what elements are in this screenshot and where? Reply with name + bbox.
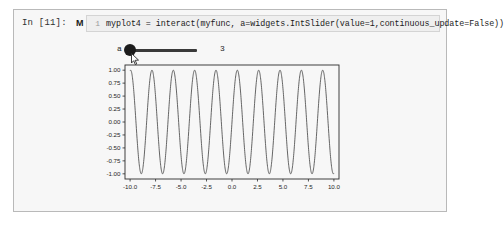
- svg-text:2.5: 2.5: [253, 183, 262, 190]
- svg-text:0.25: 0.25: [108, 105, 121, 112]
- svg-text:7.5: 7.5: [304, 183, 313, 190]
- run-cell-marker-icon[interactable]: M: [76, 18, 84, 28]
- svg-text:5.0: 5.0: [279, 183, 288, 190]
- svg-text:0.00: 0.00: [108, 118, 121, 125]
- svg-text:-2.5: -2.5: [201, 183, 212, 190]
- sine-plot-svg: -10.0-7.5-5.0-2.50.02.55.07.510.01.000.7…: [67, 57, 347, 205]
- code-line-text: myplot4 = interact(myfunc, a=widgets.Int…: [106, 19, 504, 29]
- svg-text:10.0: 10.0: [328, 183, 341, 190]
- svg-text:-0.25: -0.25: [106, 131, 121, 138]
- svg-text:1.00: 1.00: [108, 66, 121, 73]
- svg-text:-1.00: -1.00: [106, 170, 121, 177]
- code-editor[interactable]: 1 myplot4 = interact(myfunc, a=widgets.I…: [86, 15, 440, 32]
- slider-label: a: [117, 44, 122, 53]
- plot-output-figure: -10.0-7.5-5.0-2.50.02.55.07.510.01.000.7…: [67, 57, 347, 205]
- svg-text:0.0: 0.0: [228, 183, 237, 190]
- svg-text:-0.50: -0.50: [106, 144, 121, 151]
- svg-text:-10.0: -10.0: [123, 183, 138, 190]
- svg-text:0.75: 0.75: [108, 79, 121, 86]
- execution-count-prompt: In [11]:: [22, 18, 67, 28]
- notebook-cell-panel: In [11]: M 1 myplot4 = interact(myfunc, …: [13, 9, 447, 212]
- slider-track[interactable]: [129, 49, 197, 52]
- svg-text:-5.0: -5.0: [176, 183, 187, 190]
- svg-text:-7.5: -7.5: [150, 183, 161, 190]
- svg-text:-0.75: -0.75: [106, 157, 121, 164]
- code-line-number: 1: [90, 19, 100, 28]
- slider-value-readout: 3: [220, 44, 225, 53]
- cell-input-row: In [11]: M 1 myplot4 = interact(myfunc, …: [14, 15, 448, 35]
- svg-text:0.50: 0.50: [108, 92, 121, 99]
